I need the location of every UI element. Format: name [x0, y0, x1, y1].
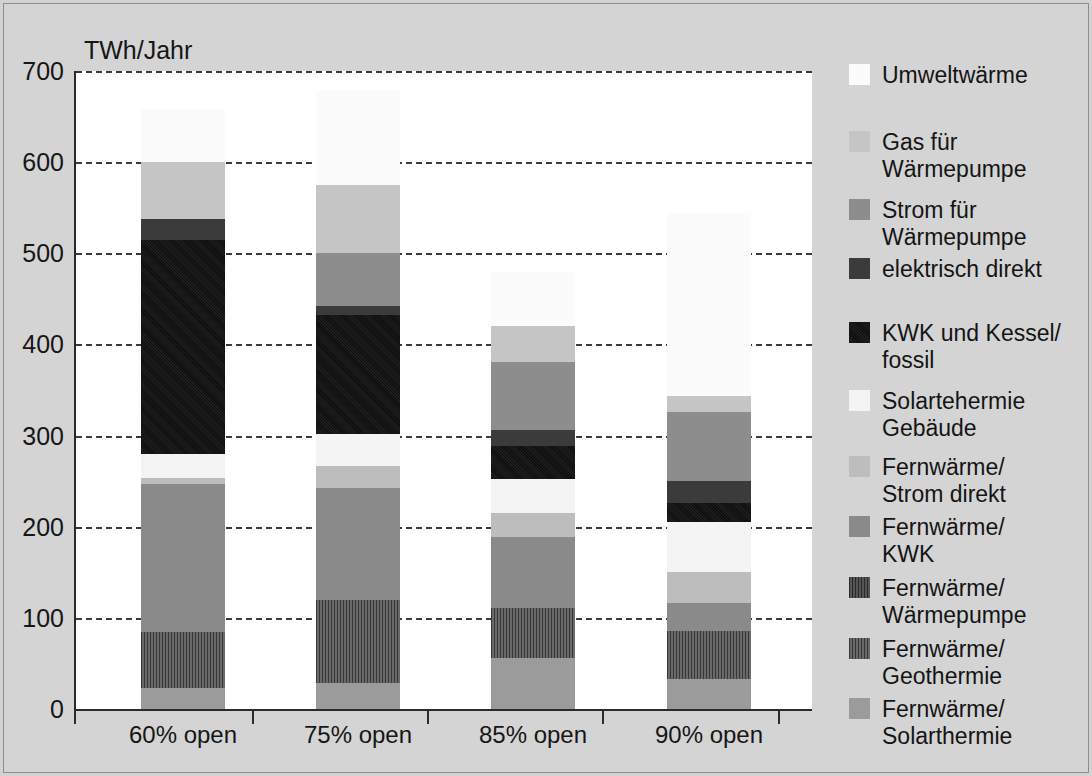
bar-segment — [491, 272, 575, 327]
bar-segment — [667, 522, 751, 572]
bar-85open — [491, 272, 575, 709]
bar-segment — [141, 109, 225, 162]
bar-segment — [316, 434, 400, 466]
bar-segment — [667, 603, 751, 630]
legend-swatch — [849, 698, 870, 719]
legend-swatch — [849, 64, 870, 85]
bar-segment — [141, 454, 225, 479]
bar-segment — [316, 306, 400, 315]
legend-label: Solartehermie Gebäude — [882, 388, 1025, 442]
legend-label: Fernwärme/ Strom direkt — [882, 454, 1006, 508]
legend-item: Umweltwärme — [849, 62, 1028, 89]
x-tick-label: 85% open — [458, 722, 608, 749]
bar-segment — [316, 253, 400, 306]
legend-label: KWK und Kessel/ fossil — [882, 320, 1061, 374]
bar-segment — [141, 688, 225, 709]
legend-swatch — [849, 456, 870, 477]
legend-swatch — [849, 131, 870, 152]
bar-segment — [667, 503, 751, 522]
bar-segment — [667, 572, 751, 603]
x-tick-label: 90% open — [634, 722, 784, 749]
bar-segment — [667, 213, 751, 396]
bar-segment — [667, 412, 751, 481]
legend-item: Gas für Wärmepumpe — [849, 129, 1026, 183]
bar-segment — [316, 315, 400, 433]
legend-label: Fernwärme/ KWK — [882, 514, 1005, 568]
bar-segment — [491, 513, 575, 537]
gridline — [76, 71, 812, 73]
bar-segment — [491, 326, 575, 362]
bar-segment — [491, 658, 575, 709]
bar-segment — [667, 631, 751, 679]
bar-60open — [141, 109, 225, 709]
bar-segment — [316, 185, 400, 253]
bar-segment — [141, 240, 225, 454]
bar-segment — [491, 446, 575, 479]
bar-segment — [141, 632, 225, 688]
bar-segment — [316, 600, 400, 684]
bar-segment — [141, 484, 225, 633]
legend-item: Solartehermie Gebäude — [849, 388, 1025, 442]
legend-swatch — [849, 390, 870, 411]
legend-item: KWK und Kessel/ fossil — [849, 320, 1061, 374]
bar-75open — [316, 90, 400, 709]
x-axis-line — [74, 709, 812, 711]
bar-segment — [491, 479, 575, 513]
bar-segment — [141, 219, 225, 240]
legend-item: Fernwärme/ Strom direkt — [849, 454, 1006, 508]
legend-item: Fernwärme/ Geothermie — [849, 636, 1005, 690]
legend-label: Fernwärme/ Geothermie — [882, 636, 1005, 690]
bar-segment — [491, 537, 575, 608]
legend-swatch — [849, 258, 870, 279]
legend-swatch — [849, 577, 870, 598]
chart-page: TWh/Jahr 7006005004003002001000 60% open… — [0, 0, 1092, 776]
legend-swatch — [849, 199, 870, 220]
bar-segment — [491, 608, 575, 658]
legend-swatch — [849, 516, 870, 537]
legend-item: Fernwärme/ Wärmepumpe — [849, 575, 1026, 629]
x-tick-label: 60% open — [108, 722, 258, 749]
bar-segment — [141, 162, 225, 219]
bar-segment — [316, 90, 400, 185]
x-tick-label: 75% open — [283, 722, 433, 749]
legend-label: Fernwärme/ Solarthermie — [882, 696, 1012, 750]
legend-label: Fernwärme/ Wärmepumpe — [882, 575, 1026, 629]
legend-item: elektrisch direkt — [849, 256, 1042, 283]
bar-segment — [316, 466, 400, 489]
legend-label: Strom für Wärmepumpe — [882, 197, 1026, 251]
legend-item: Fernwärme/ Solarthermie — [849, 696, 1012, 750]
bar-segment — [316, 683, 400, 709]
bar-segment — [667, 481, 751, 503]
bar-90open — [667, 213, 751, 709]
legend-swatch — [849, 638, 870, 659]
y-axis-unit-label: TWh/Jahr — [84, 36, 192, 65]
legend-label: Gas für Wärmepumpe — [882, 129, 1026, 183]
bar-segment — [316, 488, 400, 599]
legend-label: Umweltwärme — [882, 62, 1028, 89]
bar-segment — [491, 362, 575, 430]
legend-swatch — [849, 322, 870, 343]
bar-segment — [667, 679, 751, 709]
x-axis-tick — [74, 711, 76, 724]
legend-label: elektrisch direkt — [882, 256, 1042, 283]
legend-item: Strom für Wärmepumpe — [849, 197, 1026, 251]
legend-item: Fernwärme/ KWK — [849, 514, 1005, 568]
bar-segment — [491, 430, 575, 446]
bar-segment — [667, 396, 751, 411]
